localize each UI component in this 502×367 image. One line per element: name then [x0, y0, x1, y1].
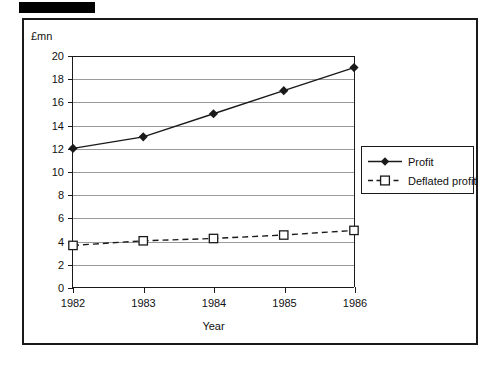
legend-label-deflated-profit: Deflated profit [408, 175, 476, 187]
y-tick-label: 20 [52, 50, 64, 62]
data-point-marker [139, 132, 148, 141]
y-tick-label: 0 [58, 282, 64, 294]
data-point-marker [279, 86, 288, 95]
data-point-marker [350, 226, 358, 234]
y-tick-label: 10 [52, 166, 64, 178]
y-tick-label: 16 [52, 96, 64, 108]
x-tick-mark [285, 287, 286, 293]
y-tick-label: 2 [58, 259, 64, 271]
y-tick-label: 18 [52, 73, 64, 85]
legend-item-profit: Profit [362, 152, 473, 171]
legend-label-profit: Profit [408, 156, 434, 168]
x-tick-label: 1986 [343, 297, 367, 309]
y-tick-label: 14 [52, 120, 64, 132]
legend-swatch-dashed-square [367, 174, 403, 187]
data-point-marker [349, 63, 358, 72]
y-tick-label: 6 [58, 212, 64, 224]
data-point-marker [139, 237, 147, 245]
data-point-marker [209, 109, 218, 118]
data-point-marker [69, 241, 77, 249]
x-tick-label: 1983 [131, 297, 155, 309]
y-tick-label: 12 [52, 143, 64, 155]
legend-item-deflated-profit: Deflated profit [362, 171, 473, 190]
chart-frame: £mn 02468101214161820 198219831984198519… [22, 18, 478, 345]
x-axis-title: Year [202, 320, 224, 332]
x-tick-mark [73, 287, 74, 293]
y-axis-unit-label: £mn [31, 30, 52, 42]
x-tick-label: 1982 [61, 297, 85, 309]
series-layer [73, 56, 354, 287]
x-tick-mark [144, 287, 145, 293]
x-tick-mark [355, 287, 356, 293]
x-tick-mark [214, 287, 215, 293]
legend-swatch-solid-diamond [367, 155, 403, 168]
chart-legend: Profit Deflated profit [361, 146, 474, 194]
y-tick-label: 4 [58, 236, 64, 248]
data-point-marker [209, 234, 217, 242]
data-point-marker [280, 231, 288, 239]
data-point-marker [68, 144, 77, 153]
x-tick-label: 1985 [272, 297, 296, 309]
plot-area: 02468101214161820 19821983198419851986 Y… [72, 56, 354, 288]
y-tick-label: 8 [58, 189, 64, 201]
series-line-profit [73, 68, 354, 149]
redacted-title-bar [19, 2, 95, 13]
x-tick-label: 1984 [202, 297, 226, 309]
